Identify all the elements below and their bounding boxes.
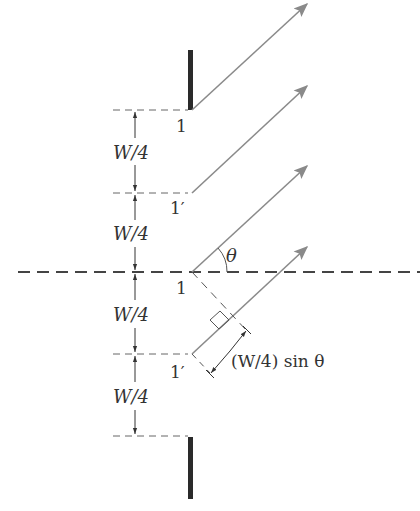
bottom-slit-edge	[188, 437, 193, 499]
label-path-difference: (W/4) sin θ	[231, 351, 324, 371]
label-edge-center: 1	[176, 278, 187, 298]
label-zone-2: W/4	[113, 223, 149, 244]
ray-3	[192, 166, 307, 272]
label-zone-3: W/4	[113, 304, 149, 325]
slit-diffraction-diagram: 1 1′ 1 1′ W/4 W/4 W/4 W/4 θ (W/4) sin θ	[0, 0, 420, 511]
ray-4	[192, 247, 307, 354]
label-edge-fourth: 1′	[170, 362, 185, 382]
top-slit-edge	[188, 50, 193, 110]
perpendicular-dashed	[192, 272, 247, 331]
perpendicular-dashed-lower	[192, 354, 210, 373]
path-diff-arrow-down	[211, 351, 230, 373]
path-diff-arrow-up	[230, 331, 246, 351]
label-angle-theta: θ	[226, 245, 237, 266]
label-zone-1: W/4	[113, 142, 149, 163]
ray-1	[192, 4, 307, 110]
label-zone-4: W/4	[113, 386, 149, 407]
label-edge-second: 1′	[170, 198, 185, 218]
right-angle-marker	[210, 311, 229, 329]
ray-2	[192, 86, 307, 193]
label-edge-top: 1	[176, 116, 187, 136]
